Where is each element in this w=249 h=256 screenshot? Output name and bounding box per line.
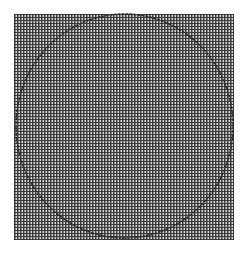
circle-outline	[0, 0, 249, 256]
